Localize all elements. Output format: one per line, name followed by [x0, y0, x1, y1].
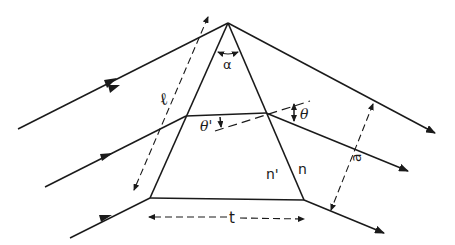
ray-middle-internal: [186, 113, 266, 116]
base-thickness-label: t: [229, 209, 235, 227]
beam-width-label: a: [348, 153, 364, 162]
incident-rays: [18, 23, 228, 238]
prism: [150, 23, 304, 200]
inner-angle-label: θ': [200, 118, 212, 134]
theta-reference-dashed-line: [215, 101, 310, 131]
slant-length-label: ℓ: [157, 88, 171, 109]
ray-bottom-incident: [70, 198, 150, 238]
ray-top-incident: [18, 23, 228, 129]
dimension-l-line: [134, 17, 208, 190]
prism-base: [150, 198, 304, 200]
ray-bottom-exit: [304, 200, 384, 233]
outer-index-label: n: [298, 161, 307, 177]
exit-rays: [228, 23, 435, 233]
prism-diagram: α ℓ θ' θ n' n a t: [0, 0, 455, 245]
apex-angle-label: α: [223, 57, 232, 72]
inner-index-label: n': [266, 166, 279, 182]
arrow-icon: [100, 153, 113, 161]
arrow-icon: [108, 85, 120, 93]
ray-middle-incident: [45, 116, 186, 187]
outer-angle-label: θ: [300, 106, 309, 122]
apex-angle-arc: [218, 52, 238, 54]
theta-prime-angle-marker: [220, 117, 221, 127]
prism-left-face: [150, 23, 228, 198]
dimension-t-line-right: [240, 218, 304, 219]
